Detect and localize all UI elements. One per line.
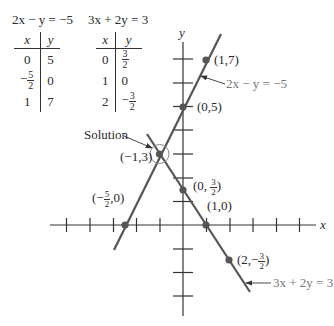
label-point-0-5: (0,5) [197, 100, 222, 114]
point-1-7 [202, 56, 209, 63]
point-neg52-0 [121, 221, 128, 228]
line-2x-minus-y [114, 34, 221, 250]
point-1-0 [202, 221, 209, 228]
point-2-neg32 [225, 256, 232, 263]
label-point-neg1-3: (−1,3) [120, 150, 152, 164]
solution-arrow [124, 136, 152, 148]
label-point-1-0: (1,0) [207, 199, 232, 213]
point-neg1-3 [156, 150, 163, 157]
label-point-1-7: (1,7) [214, 53, 239, 67]
y-axis-label: y [179, 26, 185, 40]
line2-label: 3x + 2y = 3 [273, 276, 333, 290]
label-point-2-neg32: (2,−32) [237, 252, 269, 271]
point-0-32 [179, 186, 186, 193]
solution-label: Solution [84, 128, 128, 142]
x-axis-label: x [320, 218, 326, 232]
point-0-5 [179, 103, 186, 110]
label-point-neg52-0: (−52,0) [92, 190, 124, 209]
line1-label-arrow [201, 76, 225, 84]
line-3x-plus-2y [147, 134, 250, 292]
label-point-0-32: (0, 32) [193, 178, 221, 197]
line1-label: 2x − y = −5 [226, 77, 287, 91]
